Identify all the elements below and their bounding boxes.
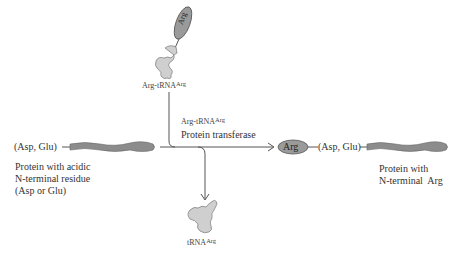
left-caption-1: Protein with acidic — [15, 161, 91, 173]
top-trna-icon — [155, 46, 177, 79]
enzyme-label-line1: Arg-tRNAArg — [181, 117, 225, 127]
left-caption-2: N-terminal residue — [15, 173, 90, 185]
output-trna-line — [198, 147, 205, 199]
top-arg-oval — [171, 5, 196, 48]
right-arg-label: Arg — [283, 141, 298, 153]
right-residue-label: (Asp, Glu) — [318, 141, 361, 153]
left-residue-label: (Asp, Glu) — [14, 141, 57, 153]
top-trna-label: Arg-tRNAArg — [142, 81, 186, 91]
left-caption-3: (Asp or Glu) — [15, 185, 66, 197]
input-trna-line — [169, 92, 175, 147]
right-caption-1: Protein with — [379, 163, 428, 175]
right-protein-chain — [367, 142, 448, 152]
bottom-trna-icon — [188, 200, 217, 232]
right-caption-2: N-terminal Arg — [379, 175, 443, 187]
bottom-trna-label: tRNAArg — [187, 238, 216, 248]
enzyme-label-line2: Protein transferase — [181, 129, 256, 141]
left-protein-chain — [70, 142, 155, 152]
